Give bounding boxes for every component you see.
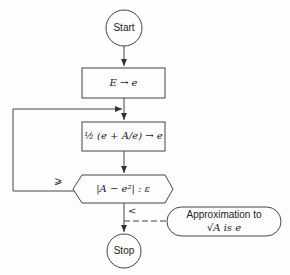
test-node: |A − e²| : ε [73, 183, 173, 194]
start-node: Start [106, 22, 142, 33]
note-line1: Approximation to [167, 209, 281, 220]
init-node: E → e [82, 77, 165, 88]
exit-label: < [128, 205, 136, 216]
flowchart: Start E → e ½ (e + A/e) → e |A − e²| : ε… [0, 0, 290, 275]
loop-back-label: ⩾ [54, 175, 62, 186]
note-line2: √A is e [167, 222, 281, 233]
stop-node: Stop [107, 245, 141, 256]
update-node: ½ (e + A/e) → e [82, 130, 165, 141]
